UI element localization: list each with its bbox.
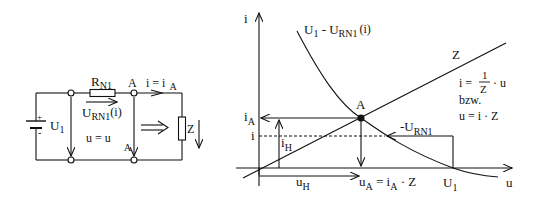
load-z bbox=[179, 117, 186, 140]
current-label: i = iA bbox=[146, 76, 177, 92]
operating-point-a bbox=[358, 115, 364, 121]
equation-or: bzw. bbox=[459, 93, 481, 107]
terminal-a-top bbox=[131, 90, 137, 96]
resistor-label: RN1 bbox=[91, 74, 112, 91]
curve-label: U1 - URN1(i) bbox=[304, 22, 371, 39]
source-plus: + bbox=[37, 112, 42, 122]
diagram-canvas: RN1 A i = iA + - U1 URN1(i) u = u A Z bbox=[0, 0, 535, 203]
ih-label: iH bbox=[281, 135, 292, 153]
graph-labels: i u U1 - URN1(i) Z i = 1 Z · u bzw. u = … bbox=[244, 11, 513, 193]
drop-label: URN1(i) bbox=[82, 105, 122, 122]
equation-2: u = i · Z bbox=[459, 109, 498, 123]
voltage-label: u = u bbox=[86, 131, 111, 145]
circuit-labels: RN1 A i = iA + - U1 URN1(i) u = u A Z bbox=[37, 74, 194, 153]
equation-1-left: i = bbox=[459, 76, 472, 90]
i-label: i bbox=[251, 128, 255, 143]
node-a-label: A bbox=[128, 76, 137, 90]
terminal-left-bottom bbox=[68, 157, 74, 163]
source-label: U1 bbox=[50, 118, 64, 135]
ia-label: iA bbox=[244, 109, 256, 127]
power-arrow-icon bbox=[158, 121, 168, 134]
x-axis-label: u bbox=[506, 175, 513, 190]
equation-1-right: · u bbox=[493, 76, 506, 90]
urn1-graph-label: -URN1 bbox=[400, 119, 433, 137]
point-a-label: A bbox=[356, 97, 366, 112]
uh-label: uH bbox=[296, 174, 310, 192]
line-z-label: Z bbox=[452, 47, 460, 62]
ua-label: uA = iA · Z bbox=[359, 174, 416, 192]
u1-label: U1 bbox=[443, 175, 457, 193]
source-minus: - bbox=[38, 127, 41, 138]
voltage-sub: A bbox=[124, 142, 132, 153]
load-label: Z bbox=[187, 122, 194, 136]
y-axis-label: i bbox=[244, 11, 248, 26]
equation-1-num: 1 bbox=[482, 69, 488, 81]
terminal-a-bottom bbox=[131, 157, 137, 163]
terminal-left-top bbox=[68, 90, 74, 96]
